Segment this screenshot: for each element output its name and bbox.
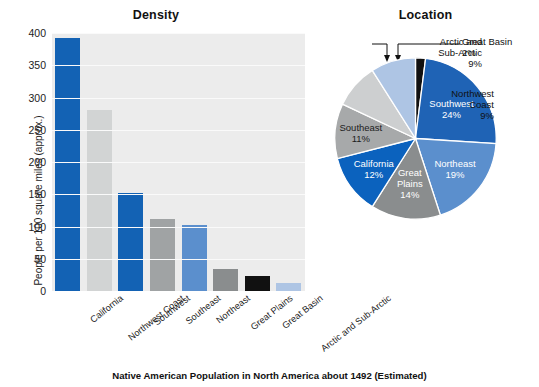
y-tick-label: 100 [28, 221, 46, 233]
pie-callout-arctic-and-sub-arctic: Arctic andSub-Arctic9% [438, 36, 482, 69]
y-tick-label: 350 [28, 59, 46, 71]
gridline [52, 98, 305, 99]
bar-southeast[interactable] [150, 219, 175, 291]
pie-callout-line: Northwest [451, 88, 494, 99]
pie-chart-panel: Location Southwest24%Northeast19%GreatPl… [312, 0, 539, 360]
y-tick-label: 300 [28, 92, 46, 104]
gridline [52, 33, 305, 34]
gridline [52, 130, 305, 131]
pie-callout-line: Arctic and [438, 36, 482, 47]
figure-root: Density People per 100 square miles (app… [0, 0, 539, 387]
gridline [52, 227, 305, 228]
bar-y-axis: People per 100 square miles (approx.) 05… [0, 33, 50, 291]
bar-chart-panel: Density People per 100 square miles (app… [0, 0, 312, 360]
pie-slices [334, 57, 497, 220]
bar-x-axis-labels: CaliforniaNorthwest CoastSouthwestSouthe… [52, 293, 305, 363]
bar-plot-area [52, 33, 305, 291]
pie-chart-title: Location [312, 8, 539, 22]
y-tick-label: 400 [28, 27, 46, 39]
pie-callout-line: 9% [438, 58, 482, 69]
pie-callout-line: 9% [451, 110, 494, 121]
gridline [52, 259, 305, 260]
gridline [52, 162, 305, 163]
pie-graphic: Southwest24%Northeast19%GreatPlains14%Ca… [334, 57, 497, 220]
pie-callout-line: Sub-Arctic [438, 47, 482, 58]
gridline [52, 194, 305, 195]
y-tick-label: 0 [40, 285, 46, 297]
bar-southwest[interactable] [118, 193, 143, 291]
bar-california[interactable] [55, 38, 80, 291]
y-tick-label: 200 [28, 156, 46, 168]
y-tick-label: 50 [34, 253, 46, 265]
bar-arctic-and-sub-arctic[interactable] [276, 283, 301, 291]
y-tick-label: 150 [28, 188, 46, 200]
x-tick-label: California [88, 293, 125, 325]
y-tick-label: 250 [28, 124, 46, 136]
pie-callout-line: Coast [451, 99, 494, 110]
bar-chart-title: Density [0, 8, 312, 22]
bar-great-plains[interactable] [213, 269, 238, 291]
gridline [52, 65, 305, 66]
figure-caption: Native American Population in North Amer… [0, 370, 539, 381]
bar-great-basin[interactable] [245, 276, 270, 291]
bar-northwest-coast[interactable] [87, 110, 112, 291]
pie-callout-northwest-coast: NorthwestCoast9% [451, 88, 494, 121]
